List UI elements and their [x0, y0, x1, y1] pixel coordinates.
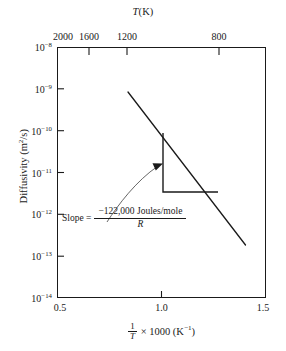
x-axis-title: 1 T × 1000 (K−1) — [57, 322, 266, 342]
slope-annotation-fraction: −122,000 Joules/mole R — [94, 206, 186, 231]
x-axis-title-close: ) — [192, 326, 196, 337]
x-axis-title-fraction: 1 T — [128, 322, 137, 342]
x-tick-label: 1.5 — [257, 302, 270, 313]
x-axis-title-multiplier: × 1000 (K — [141, 326, 184, 337]
plot-graphics — [0, 0, 286, 351]
x-axis-title-exponent: −1 — [184, 324, 192, 332]
slope-annotation-numerator: −122,000 Joules/mole — [94, 206, 186, 219]
annotation-arrowhead — [153, 163, 164, 170]
top-axis-ticks — [89, 47, 219, 55]
slope-triangle — [163, 133, 218, 192]
arrhenius-diffusivity-chart: T(K) 2000 1600 1200 800 Diffusivity (m2/… — [0, 0, 286, 351]
x-tick-label: 1.0 — [155, 302, 168, 313]
x-tick-label: 0.5 — [54, 302, 67, 313]
slope-annotation-lead: Slope = — [62, 213, 91, 223]
slope-annotation-denominator: R — [94, 219, 186, 231]
left-axis-ticks — [57, 89, 64, 256]
slope-annotation: Slope = −122,000 Joules/mole R — [62, 206, 186, 231]
x-axis-title-denominator: T — [128, 332, 137, 341]
